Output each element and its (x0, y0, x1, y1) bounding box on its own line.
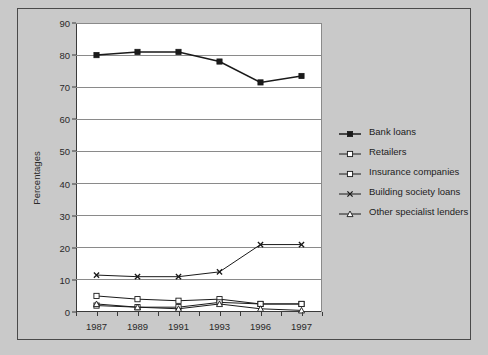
y-tick-mark (72, 279, 76, 280)
data-point-marker (135, 297, 140, 302)
data-point-marker (94, 293, 99, 298)
y-tick-mark (72, 215, 76, 216)
y-tick-label: 80 (59, 50, 70, 61)
data-point-marker (217, 59, 222, 64)
legend-marker-icon (338, 166, 362, 178)
legend-item: Other specialist lenders (338, 202, 468, 222)
y-tick-mark (72, 183, 76, 184)
y-tick-label: 0 (65, 307, 70, 318)
y-tick-label: 70 (59, 82, 70, 93)
x-tick-mark (117, 312, 118, 316)
legend-label: Building society loans (369, 187, 460, 197)
y-axis-title: Percentages (31, 151, 42, 204)
x-tick-mark (302, 312, 303, 316)
x-tick-label: 1997 (291, 321, 312, 332)
y-tick-mark (72, 119, 76, 120)
y-tick-label: 20 (59, 242, 70, 253)
x-tick-label: 1989 (127, 321, 148, 332)
series-line (97, 52, 302, 83)
y-tick-mark (72, 87, 76, 88)
legend-marker-icon (338, 126, 362, 138)
chart-canvas (76, 23, 322, 312)
data-point-marker (94, 53, 99, 58)
x-tick-mark (281, 312, 282, 316)
legend-label: Other specialist lenders (369, 207, 468, 217)
x-tick-label: 1991 (168, 321, 189, 332)
legend-item: Insurance companies (338, 162, 468, 182)
y-tick-mark (72, 247, 76, 248)
data-point-marker (347, 171, 352, 176)
series-line (97, 296, 302, 304)
plot-wrapper: 0102030405060708090 19871989199119931996… (76, 23, 322, 312)
chart-legend: Bank loansRetailersInsurance companiesBu… (338, 122, 468, 222)
series-2 (94, 300, 304, 310)
y-tick-label: 40 (59, 178, 70, 189)
x-tick-label: 1996 (250, 321, 271, 332)
x-tick-mark (97, 312, 98, 316)
x-tick-mark (220, 312, 221, 316)
y-tick-label: 60 (59, 114, 70, 125)
data-point-marker (299, 301, 304, 306)
legend-marker-icon (338, 206, 362, 218)
x-tick-mark (158, 312, 159, 316)
x-tick-mark (76, 312, 77, 316)
y-tick-label: 50 (59, 146, 70, 157)
data-point-marker (347, 151, 352, 156)
series-line (97, 245, 302, 277)
data-point-marker (135, 49, 140, 54)
y-tick-mark (72, 23, 76, 24)
legend-label: Insurance companies (369, 167, 459, 177)
legend-label: Retailers (369, 147, 407, 157)
x-tick-mark (261, 312, 262, 316)
data-point-marker (176, 298, 181, 303)
x-tick-mark (322, 312, 323, 316)
data-point-marker (347, 131, 352, 136)
chart-figure: Percentages 0102030405060708090 19871989… (0, 0, 488, 355)
y-tick-label: 30 (59, 210, 70, 221)
legend-marker-icon (338, 146, 362, 158)
legend-item: Bank loans (338, 122, 468, 142)
x-tick-mark (138, 312, 139, 316)
x-tick-mark (199, 312, 200, 316)
data-point-marker (258, 80, 263, 85)
data-point-marker (299, 73, 304, 78)
data-point-marker (176, 49, 181, 54)
legend-item: Retailers (338, 142, 468, 162)
y-tick-mark (72, 55, 76, 56)
y-tick-label: 10 (59, 274, 70, 285)
x-tick-label: 1993 (209, 321, 230, 332)
y-tick-label: 90 (59, 18, 70, 29)
legend-label: Bank loans (369, 127, 416, 137)
y-tick-mark (72, 151, 76, 152)
x-tick-mark (240, 312, 241, 316)
x-tick-label: 1987 (86, 321, 107, 332)
legend-item: Building society loans (338, 182, 468, 202)
legend-marker-icon (338, 186, 362, 198)
x-tick-mark (179, 312, 180, 316)
